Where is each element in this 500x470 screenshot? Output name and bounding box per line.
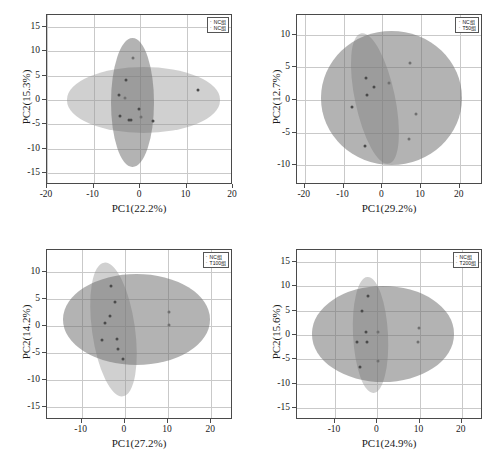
x-tick [210, 419, 211, 423]
x-tick-label: 10 [162, 424, 172, 434]
data-point [365, 330, 368, 333]
legend: ·NC组·NC组 [207, 17, 229, 33]
y-tick [292, 99, 296, 100]
y-axis-title: PC2(15.3%) [20, 59, 32, 135]
y-tick-label: 10 [12, 266, 40, 276]
gridline-horizontal [47, 173, 231, 174]
x-tick [459, 184, 460, 188]
y-tick-label: -10 [262, 159, 290, 169]
y-tick-label: -10 [12, 143, 40, 153]
x-tick [81, 419, 82, 423]
x-tick-label: 0 [374, 424, 379, 434]
data-point [417, 341, 420, 344]
x-axis-title: PC1(29.2%) [362, 202, 417, 214]
legend-label: NC组 [214, 25, 226, 31]
legend-label: T50组 [462, 25, 476, 31]
y-tick-label: 15 [12, 21, 40, 31]
y-tick [292, 66, 296, 67]
x-axis-title: PC1(22.2%) [112, 202, 167, 214]
legend-item: ·T50组 [457, 25, 476, 31]
gridline-horizontal [297, 408, 481, 409]
y-tick [292, 334, 296, 335]
x-tick-label: -10 [328, 424, 341, 434]
y-tick-label: -10 [262, 378, 290, 388]
data-point [104, 321, 107, 324]
y-axis-title: PC2(12.7%) [270, 59, 282, 135]
data-point [196, 88, 199, 91]
data-point [365, 93, 368, 96]
y-tick [42, 148, 46, 149]
x-tick [420, 184, 421, 188]
x-axis-title: PC1(24.9%) [362, 437, 417, 449]
y-tick-label: -15 [12, 167, 40, 177]
y-tick [42, 325, 46, 326]
x-tick [304, 184, 305, 188]
x-tick [381, 184, 382, 188]
x-tick [139, 184, 140, 188]
y-tick [42, 352, 46, 353]
confidence-ellipse [312, 286, 454, 381]
y-tick [42, 406, 46, 407]
x-tick [46, 184, 47, 188]
y-tick-label: -15 [12, 401, 40, 411]
x-tick [93, 184, 94, 188]
legend-marker-icon: · [209, 25, 213, 31]
y-tick [42, 99, 46, 100]
data-point [125, 78, 128, 81]
plot-area: ·NC组·T200组 [296, 249, 482, 419]
confidence-ellipse [63, 274, 210, 365]
legend-marker-icon: · [455, 260, 459, 266]
data-point [152, 120, 155, 123]
x-tick-label: -20 [297, 189, 310, 199]
y-axis-title: PC2(14.2%) [20, 294, 32, 370]
x-tick-label: 10 [414, 424, 424, 434]
x-tick [461, 419, 462, 423]
x-tick [334, 419, 335, 423]
y-tick [292, 383, 296, 384]
y-axis-title: PC2(15.6%) [270, 294, 282, 370]
data-point [408, 62, 411, 65]
plot-area: ·NC组·T100组 [46, 249, 232, 419]
data-point [372, 85, 375, 88]
y-tick [42, 298, 46, 299]
y-tick [292, 164, 296, 165]
data-point [414, 113, 417, 116]
data-point [119, 114, 122, 117]
x-tick [376, 419, 377, 423]
legend-marker-icon: · [205, 260, 209, 266]
x-tick-label: -20 [40, 189, 53, 199]
plot-area: ·NC组·T50组 [296, 14, 482, 184]
y-tick-label: -10 [12, 374, 40, 384]
x-tick-label: 10 [415, 189, 425, 199]
x-axis-title: PC1(27.2%) [112, 437, 167, 449]
data-point [363, 144, 366, 147]
x-tick-label: 0 [137, 189, 142, 199]
x-tick-label: 20 [227, 189, 237, 199]
x-tick [343, 184, 344, 188]
x-tick-label: -10 [86, 189, 99, 199]
gridline-vertical [305, 15, 306, 183]
legend-item: ·T100组 [205, 260, 226, 266]
x-tick-label: 10 [181, 189, 191, 199]
data-point [117, 348, 120, 351]
y-tick-label: 10 [262, 280, 290, 290]
x-tick [167, 419, 168, 423]
y-tick [292, 358, 296, 359]
x-tick [232, 184, 233, 188]
data-point [407, 137, 410, 140]
x-tick-label: 20 [456, 424, 466, 434]
data-point [356, 341, 359, 344]
y-tick [292, 34, 296, 35]
gridline-vertical [462, 250, 463, 418]
data-point [417, 326, 420, 329]
y-tick-label: 15 [262, 256, 290, 266]
data-point [350, 106, 353, 109]
y-tick [292, 132, 296, 133]
y-tick-label: 10 [12, 45, 40, 55]
y-tick [42, 75, 46, 76]
data-point [113, 301, 116, 304]
gridline-horizontal [297, 165, 481, 166]
pca-figure: ·NC组·NC组-20-1001020151050-5-10-15PC1(22.… [0, 0, 500, 470]
y-tick [42, 379, 46, 380]
y-tick-label: 10 [262, 29, 290, 39]
